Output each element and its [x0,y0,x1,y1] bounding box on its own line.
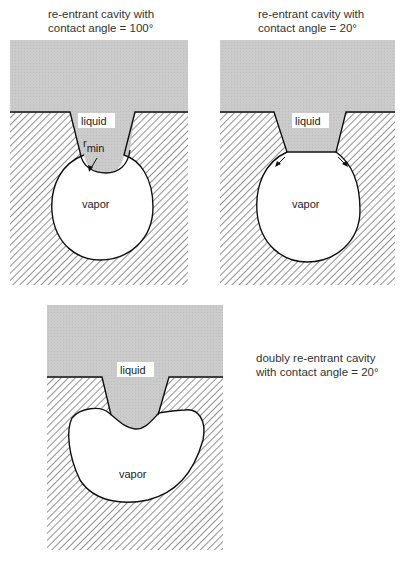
panel-2-diagram: liquid vapor [220,40,395,285]
panel-3-liquid-label: liquid [120,364,146,376]
panel-2-vapor-label: vapor [292,198,320,210]
panel-2-liquid-label: liquid [295,115,321,127]
panel-3-diagram: liquid vapor [47,305,223,550]
panel-1-diagram: liquid rmin vapor [10,40,188,285]
panel-1-liquid-bulk [10,40,188,113]
panel-2-liquid-bulk [220,40,395,113]
panel-3-vapor-label: vapor [119,468,147,480]
cavity-diagrams: liquid rmin vapor liquid vapor liquid va… [0,0,403,570]
panel-1-liquid-label: liquid [81,115,107,127]
panel-1-vapor-label: vapor [82,198,110,210]
